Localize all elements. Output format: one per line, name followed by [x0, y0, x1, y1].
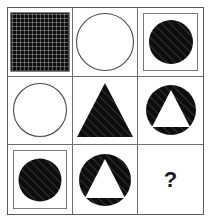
- puzzle-cell-row3-col1[interactable]: [8, 145, 73, 214]
- shape-framed-hatched-circle: [8, 145, 72, 214]
- puzzle-cell-row2-col3[interactable]: [138, 77, 203, 146]
- question-mark-label: ?: [164, 169, 177, 191]
- puzzle-cell-row1-col2[interactable]: [73, 8, 138, 77]
- shape-hatched-square: [8, 8, 72, 76]
- puzzle-cell-row1-col3[interactable]: [138, 8, 203, 77]
- puzzle-cell-row1-col1[interactable]: [8, 8, 73, 77]
- puzzle-cell-row3-col3[interactable]: ?: [138, 145, 203, 214]
- hatched-circle-icon: [15, 155, 65, 205]
- matrix-puzzle: ?: [7, 7, 204, 215]
- shape-hatched-circle-triangle-cutout: [138, 77, 203, 145]
- outline-circle-icon: [11, 81, 69, 139]
- hatched-circle-icon: [146, 17, 196, 67]
- outline-circle-icon: [74, 11, 136, 73]
- answer-slot: ?: [138, 145, 203, 214]
- hatched-square-icon: [8, 10, 72, 74]
- circle-triangle-cutout-icon: [143, 82, 199, 138]
- puzzle-cell-row3-col2[interactable]: [73, 145, 138, 214]
- puzzle-cell-row2-col1[interactable]: [8, 77, 73, 146]
- puzzle-grid: ?: [8, 8, 203, 214]
- shape-outline-circle: [73, 8, 137, 76]
- shape-outline-circle: [8, 77, 72, 145]
- circle-triangle-cutout-icon: [76, 151, 134, 209]
- shape-hatched-triangle: [73, 77, 137, 145]
- hatched-triangle-icon: [74, 80, 136, 140]
- shape-hatched-circle-triangle-cutout: [73, 145, 137, 214]
- shape-framed-hatched-circle: [138, 8, 203, 76]
- puzzle-cell-row2-col2[interactable]: [73, 77, 138, 146]
